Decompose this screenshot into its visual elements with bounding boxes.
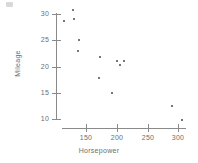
data-point	[116, 60, 118, 62]
data-point	[111, 92, 113, 94]
data-point-layer	[0, 0, 198, 163]
scatter-plot-figure: 30 25 20 15 10 150 200 250 300 Horsepowe…	[0, 0, 198, 163]
data-point	[119, 64, 121, 66]
data-point	[77, 50, 79, 52]
data-point	[73, 18, 75, 20]
data-point	[72, 9, 74, 11]
data-point	[171, 105, 173, 107]
data-point	[98, 77, 100, 79]
data-point	[123, 60, 125, 62]
data-point	[63, 20, 65, 22]
data-point	[99, 56, 101, 58]
data-point	[181, 119, 183, 121]
data-point	[78, 39, 80, 41]
